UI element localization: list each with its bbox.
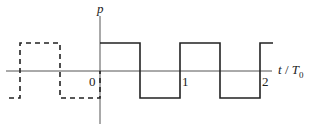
x-label-t: t: [278, 62, 282, 77]
tick-label-1: 1: [182, 75, 189, 88]
tick-label-2: 2: [262, 75, 269, 88]
x-label-sub: 0: [299, 70, 304, 80]
x-axis-label: t / T0: [278, 63, 303, 80]
x-label-T: T: [292, 62, 299, 77]
x-label-sep: /: [285, 62, 289, 77]
waveform-plot: [0, 0, 316, 139]
y-axis-label: p: [97, 2, 104, 15]
tick-label-0: 0: [89, 75, 96, 88]
square-wave-figure: p 0 1 2 t / T0: [0, 0, 316, 139]
